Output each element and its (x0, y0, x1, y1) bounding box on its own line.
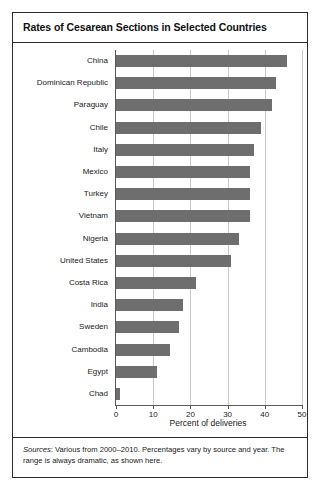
bar (116, 210, 250, 222)
tick-mark (190, 405, 191, 409)
bar (116, 77, 276, 89)
category-label: Paraguay (74, 99, 108, 111)
category-label: Turkey (84, 188, 108, 200)
category-label: Costa Rica (69, 277, 108, 289)
category-label: Nigeria (83, 233, 108, 245)
category-label: Cambodia (72, 344, 108, 356)
category-label: China (87, 55, 108, 67)
category-label: Italy (93, 144, 108, 156)
bar (116, 188, 250, 200)
title-divider (13, 42, 307, 43)
gridline (302, 50, 303, 405)
category-label: Chile (90, 122, 108, 134)
bar (116, 166, 250, 178)
source-note-label: Sources (23, 445, 51, 454)
bar (116, 388, 120, 400)
category-label: Sweden (79, 321, 108, 333)
category-axis-labels: ChinaDominican RepublicParaguayChileItal… (13, 50, 112, 405)
bar (116, 255, 231, 267)
bar (116, 321, 179, 333)
category-label: India (91, 299, 108, 311)
bar (116, 299, 183, 311)
source-note-text: : Various from 2000–2010. Percentages va… (23, 445, 284, 465)
source-note: Sources: Various from 2000–2010. Percent… (23, 444, 299, 466)
chart-title: Rates of Cesarean Sections in Selected C… (23, 21, 267, 33)
bar (116, 344, 170, 356)
bar (116, 144, 254, 156)
bar (116, 99, 272, 111)
tick-mark (228, 405, 229, 409)
category-label: Mexico (83, 166, 108, 178)
bar (116, 122, 261, 134)
tick-mark (302, 405, 303, 409)
x-axis-title: Percent of deliveries (115, 418, 301, 428)
tick-mark (265, 405, 266, 409)
tick-mark (153, 405, 154, 409)
bar (116, 366, 157, 378)
bar (116, 55, 287, 67)
category-label: Dominican Republic (37, 77, 108, 89)
category-label: United States (60, 255, 108, 267)
category-label: Vietnam (79, 210, 108, 222)
footer-divider (13, 437, 307, 438)
tick-mark (116, 405, 117, 409)
chart-card: Rates of Cesarean Sections in Selected C… (12, 12, 308, 478)
category-label: Chad (89, 388, 108, 400)
plot-area: ChinaDominican RepublicParaguayChileItal… (13, 44, 307, 434)
category-label: Egypt (88, 366, 108, 378)
bar (116, 233, 239, 245)
bar (116, 277, 196, 289)
plot-box: 01020304050 (115, 50, 302, 406)
